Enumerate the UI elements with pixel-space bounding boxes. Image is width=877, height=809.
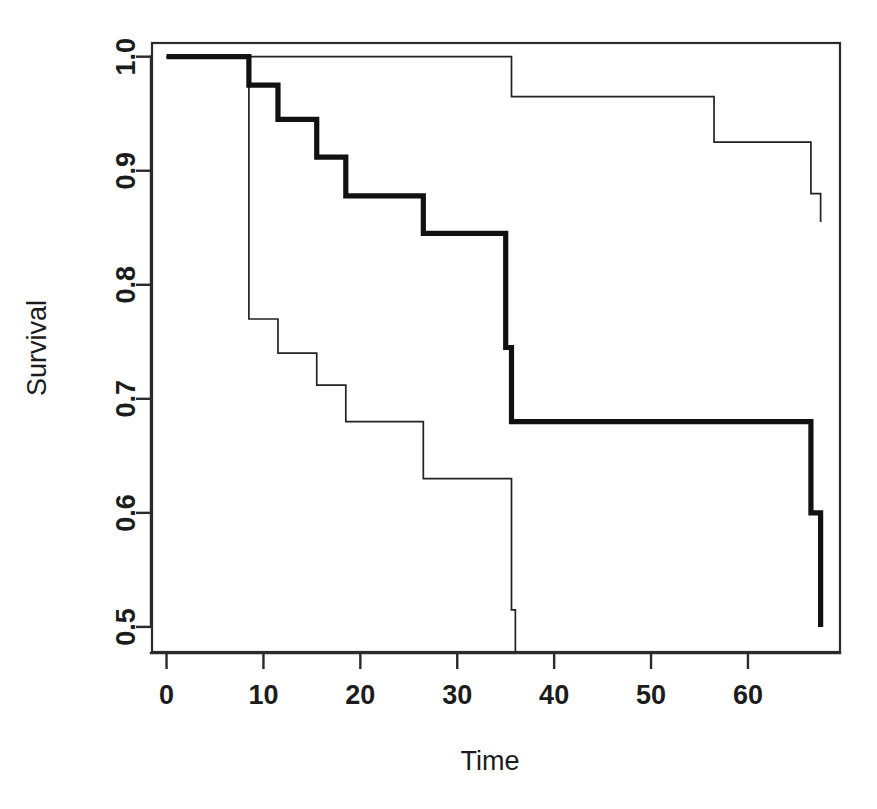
plot-canvas: 0.50.60.70.80.91.0 0102030405060 Time Su… bbox=[0, 0, 877, 809]
x-tick-label-60: 60 bbox=[733, 680, 763, 710]
x-tick-label-30: 30 bbox=[442, 680, 472, 710]
y-tick-label-0.9: 0.9 bbox=[111, 152, 141, 190]
x-tick-label-10: 10 bbox=[248, 680, 278, 710]
y-tick-label-0.5: 0.5 bbox=[111, 608, 141, 646]
y-axis-title: Survival bbox=[22, 300, 52, 396]
x-tick-label-20: 20 bbox=[345, 680, 375, 710]
y-tick-label-0.7: 0.7 bbox=[111, 380, 141, 418]
survival-plot-figure: 0.50.60.70.80.91.0 0102030405060 Time Su… bbox=[0, 0, 877, 809]
x-tick-label-50: 50 bbox=[636, 680, 666, 710]
x-axis-title: Time bbox=[461, 746, 520, 776]
y-tick-label-1.0: 1.0 bbox=[111, 38, 141, 76]
x-tick-label-0: 0 bbox=[159, 680, 174, 710]
x-tick-label-40: 40 bbox=[539, 680, 569, 710]
y-tick-label-0.8: 0.8 bbox=[111, 266, 141, 304]
y-tick-label-0.6: 0.6 bbox=[111, 494, 141, 532]
